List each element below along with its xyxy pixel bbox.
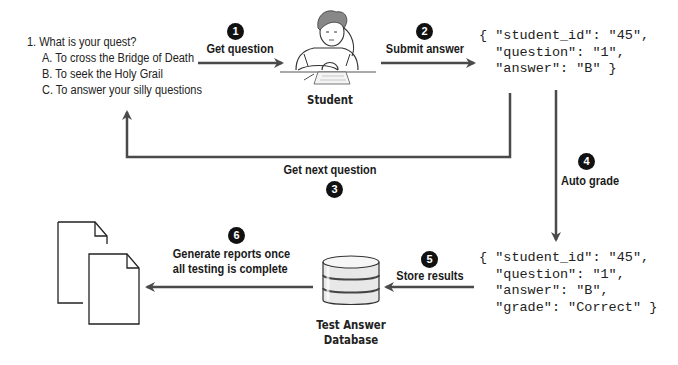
step-label-submit-answer: Submit answer	[381, 42, 469, 56]
submission-json-line-2: "question": "1",	[479, 45, 649, 62]
student-icon	[278, 8, 378, 86]
question-option-b: B. To seek the Holy Grail	[42, 66, 202, 82]
step-label-generate-reports-line-2: all testing is complete	[173, 262, 287, 277]
submission-json-line-1: { "student_id": "45",	[479, 28, 649, 45]
step-label-generate-reports-line-1: Generate reports once	[173, 247, 287, 262]
graded-json-line-4: "grade": "Correct" }	[479, 300, 657, 317]
step-badge-6: 6	[228, 227, 245, 244]
step-label-auto-grade: Auto grade	[559, 174, 621, 188]
question-prompt: 1. What is your quest?	[27, 34, 200, 50]
step-label-get-next-question: Get next question	[277, 163, 383, 177]
report-documents-icon	[55, 220, 145, 330]
graded-json-line-3: "answer": "B",	[479, 283, 657, 300]
step-label-generate-reports: Generate reports once all testing is com…	[173, 247, 287, 277]
step-badge-1: 1	[227, 23, 244, 40]
submission-json: { "student_id": "45", "question": "1", "…	[479, 28, 649, 78]
question-option-a: A. To cross the Bridge of Death	[42, 50, 202, 66]
step-badge-3: 3	[326, 181, 343, 198]
database-caption-line-1: Test Answer	[308, 318, 395, 333]
step-badge-4: 4	[578, 153, 595, 170]
submission-json-line-3: "answer": "B" }	[479, 61, 649, 78]
step-label-store-results: Store results	[390, 269, 471, 283]
step-badge-2: 2	[416, 23, 433, 40]
database-caption-line-2: Database	[308, 333, 395, 348]
question-block: 1. What is your quest? A. To cross the B…	[27, 34, 224, 98]
database-icon	[320, 254, 382, 310]
database-caption: Test Answer Database	[308, 318, 395, 348]
student-caption: Student	[296, 93, 364, 107]
step-label-get-question: Get question	[196, 42, 284, 56]
graded-json-line-1: { "student_id": "45",	[479, 250, 657, 267]
graded-json-line-2: "question": "1",	[479, 267, 657, 284]
step-badge-5: 5	[421, 251, 438, 268]
graded-json: { "student_id": "45", "question": "1", "…	[479, 250, 657, 316]
question-option-c: C. To answer your silly questions	[42, 82, 202, 98]
